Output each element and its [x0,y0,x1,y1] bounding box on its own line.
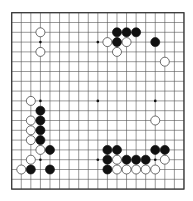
black-stone [36,116,45,125]
white-stone [36,145,45,154]
white-stone [112,165,121,174]
white-stone [17,165,26,174]
black-stone [36,136,45,145]
black-stone [36,126,45,135]
star-point [39,158,42,161]
black-stone [36,106,45,115]
white-stone [36,28,45,37]
white-stone [160,155,169,164]
white-stone [36,47,45,56]
white-stone [151,116,160,125]
black-stone [112,28,121,37]
black-stone [122,155,131,164]
white-stone [141,165,150,174]
black-stone [112,38,121,47]
star-point [97,41,100,44]
black-stone [160,145,169,154]
star-point [154,100,157,103]
white-stone [122,38,131,47]
black-stone [122,28,131,37]
black-stone [26,165,35,174]
white-stone [122,165,131,174]
black-stone [151,145,160,154]
black-stone [132,28,141,37]
star-point [39,41,42,44]
black-stone [45,145,54,154]
black-stone [103,145,112,154]
white-stone [151,165,160,174]
star-point [39,100,42,103]
black-stone [103,155,112,164]
black-stone [45,165,54,174]
star-point [154,158,157,161]
white-stone [112,47,121,56]
white-stone [160,57,169,66]
black-stone [141,155,150,164]
star-point [97,100,100,103]
black-stone [132,155,141,164]
black-stone [151,38,160,47]
white-stone [26,136,35,145]
star-point [97,158,100,161]
white-stone [26,126,35,135]
go-board[interactable] [0,0,193,201]
black-stone [103,165,112,174]
black-stone [112,145,121,154]
white-stone [132,165,141,174]
white-stone [112,155,121,164]
white-stone [26,116,35,125]
white-stone [26,155,35,164]
white-stone [26,96,35,105]
white-stone [103,38,112,47]
